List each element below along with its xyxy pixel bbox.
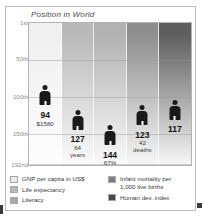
legend-label: Life expectancy bbox=[22, 186, 65, 194]
legend-column-left: GNP per capita in US$Life expectancyLite… bbox=[10, 175, 106, 207]
person-head-icon bbox=[172, 100, 177, 105]
legend-label: Literacy bbox=[22, 196, 44, 204]
legend-label: Human dev. index bbox=[120, 194, 169, 202]
legend-item[interactable]: Literacy bbox=[10, 196, 106, 204]
chart-title: Position in World bbox=[31, 10, 94, 19]
y-axis-tick-label: 1st bbox=[5, 20, 28, 26]
person-head-icon bbox=[43, 85, 48, 90]
person-head-icon bbox=[140, 105, 145, 110]
legend-item[interactable]: Infant mortality per1,000 live births bbox=[108, 175, 192, 191]
person-marker-human-dev-index bbox=[168, 100, 181, 120]
legend: GNP per capita in US$Life expectancyLite… bbox=[9, 175, 192, 209]
legend-swatch bbox=[10, 176, 18, 183]
person-body-icon bbox=[72, 116, 83, 130]
person-marker-gnp-per-capita bbox=[39, 85, 52, 105]
legend-label: Infant mortality per1,000 live births bbox=[120, 175, 171, 191]
legend-swatch bbox=[108, 194, 116, 201]
person-body-icon bbox=[137, 111, 148, 125]
y-axis-tick-label: 150th bbox=[5, 131, 28, 137]
rank-value: 117 bbox=[168, 125, 182, 135]
legend-item[interactable]: Life expectancy bbox=[10, 186, 106, 194]
corner-mark-bottom-right bbox=[197, 203, 202, 208]
y-axis: 1st50th100th150th192nd bbox=[5, 22, 28, 166]
legend-swatch bbox=[108, 176, 116, 183]
person-marker-life-expectancy bbox=[71, 110, 84, 130]
legend-label: GNP per capita in US$ bbox=[22, 175, 84, 183]
legend-swatch bbox=[10, 186, 18, 193]
sub-value-2: years bbox=[70, 152, 85, 159]
corner-mark-bottom-left bbox=[0, 205, 3, 214]
legend-item[interactable]: Human dev. index bbox=[108, 194, 192, 202]
y-axis-tick-label: 100th bbox=[5, 94, 28, 100]
legend-column-right: Infant mortality per1,000 live birthsHum… bbox=[108, 175, 192, 204]
column-human-dev-index bbox=[159, 23, 191, 165]
data-label-human-dev-index: 117 bbox=[168, 125, 182, 135]
legend-item[interactable]: GNP per capita in US$ bbox=[10, 175, 106, 183]
person-head-icon bbox=[108, 125, 113, 130]
y-axis-tick-label: 50th bbox=[5, 56, 28, 62]
legend-swatch bbox=[10, 197, 18, 204]
plot-area: 94$158012764years14467%12342deaths117 bbox=[28, 22, 192, 166]
y-axis-tick-label: 192nd bbox=[5, 162, 28, 168]
chart-figure: Position in World 1st50th100th150th192nd… bbox=[0, 0, 202, 218]
data-label-infant-mortality: 12342deaths bbox=[133, 131, 152, 154]
sub-value: $1580 bbox=[37, 121, 54, 128]
sub-value-2: deaths bbox=[133, 147, 152, 154]
data-label-literacy: 14467% bbox=[103, 151, 117, 166]
person-head-icon bbox=[75, 110, 80, 115]
person-body-icon bbox=[105, 131, 116, 145]
person-marker-infant-mortality bbox=[136, 105, 149, 125]
person-body-icon bbox=[40, 91, 51, 105]
person-body-icon bbox=[169, 106, 180, 120]
data-label-life-expectancy: 12764years bbox=[70, 135, 85, 158]
data-label-gnp-per-capita: 94$1580 bbox=[37, 111, 54, 127]
person-marker-literacy bbox=[104, 125, 117, 145]
sub-value: 67% bbox=[103, 160, 117, 166]
